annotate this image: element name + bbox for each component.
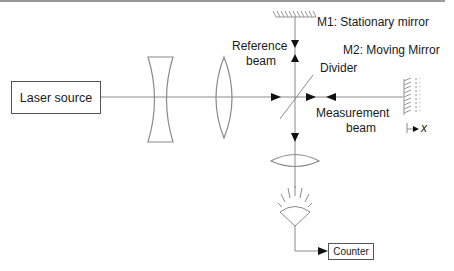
arrow-right-counter: [318, 247, 328, 255]
reference-beam-label-line1: Reference: [232, 40, 287, 53]
arrow-right-incoming: [271, 93, 281, 101]
counter-box: Counter: [328, 243, 374, 260]
signal-line: [295, 226, 318, 251]
arrow-right-measurement: [306, 93, 316, 101]
detector-icon: [278, 186, 312, 226]
m2-label: M2: Moving Mirror: [343, 44, 440, 57]
concave-lens-icon: [148, 57, 173, 142]
interferometer-diagram: [0, 0, 454, 271]
counter-label: Counter: [333, 246, 369, 257]
measurement-beam-label-line2: beam: [346, 122, 376, 135]
arrow-up-reference: [291, 54, 299, 62]
measurement-beam-label-line1: Measurement: [316, 107, 389, 120]
stationary-mirror-icon: [273, 11, 316, 17]
divider-label: Divider: [320, 62, 357, 75]
moving-mirror-icon: [404, 78, 420, 115]
x-axis-label: x: [421, 122, 427, 135]
arrow-down-reference: [291, 40, 299, 48]
m1-label: M1: Stationary mirror: [317, 16, 429, 29]
reference-beam-label-line2: beam: [246, 55, 276, 68]
x-direction-indicator: [407, 123, 419, 133]
arrow-down-output: [291, 133, 299, 142]
laser-source-box: Laser source: [11, 81, 101, 114]
laser-source-label: Laser source: [20, 91, 92, 105]
arrow-left-measurement: [326, 93, 336, 101]
